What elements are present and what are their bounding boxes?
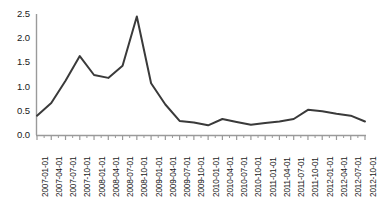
x-axis-tick-label: 2008-07-01 bbox=[126, 157, 135, 197]
y-axis-tick-label: 0.0 bbox=[8, 130, 30, 140]
x-axis-tick-label: 2012-04-01 bbox=[340, 157, 349, 197]
x-axis-tick-label: 2010-01-01 bbox=[212, 157, 221, 197]
x-axis-tick-label: 2008-04-01 bbox=[112, 157, 121, 197]
x-axis-tick-label: 2010-07-01 bbox=[240, 157, 249, 197]
x-axis-tick-label: 2010-10-01 bbox=[254, 157, 263, 197]
x-axis-tick-label: 2007-01-01 bbox=[41, 157, 50, 197]
x-axis-tick-label: 2012-10-01 bbox=[369, 157, 378, 197]
x-axis-tick-label: 2011-04-01 bbox=[283, 157, 292, 197]
x-axis-tick-label: 2011-01-01 bbox=[269, 157, 278, 197]
x-axis-tick-label: 2009-01-01 bbox=[155, 157, 164, 197]
x-axis-tick-label: 2011-10-01 bbox=[311, 157, 320, 197]
x-axis-tick-label: 2009-10-01 bbox=[197, 157, 206, 197]
x-axis-tick-label: 2010-04-01 bbox=[226, 157, 235, 197]
line-chart: 0.00.51.01.52.02.5 2007-01-012007-04-012… bbox=[0, 0, 382, 201]
y-axis-tick-label: 2.0 bbox=[8, 33, 30, 43]
x-axis-tick-label: 2008-01-01 bbox=[98, 157, 107, 197]
y-axis-tick-label: 2.5 bbox=[8, 9, 30, 19]
y-axis-tick-label: 0.5 bbox=[8, 106, 30, 116]
x-axis-tick-label: 2007-10-01 bbox=[83, 157, 92, 197]
x-axis-tick-label: 2007-04-01 bbox=[55, 157, 64, 197]
y-axis-tick-label: 1.0 bbox=[8, 82, 30, 92]
x-axis-tick-label: 2008-10-01 bbox=[140, 157, 149, 197]
x-axis-tick-label: 2011-07-01 bbox=[297, 157, 306, 197]
data-series-line bbox=[37, 16, 365, 125]
y-axis-tick-label: 1.5 bbox=[8, 57, 30, 67]
x-axis-tick-label: 2009-07-01 bbox=[183, 157, 192, 197]
axis-group bbox=[36, 14, 366, 140]
x-axis-tick-label: 2009-04-01 bbox=[169, 157, 178, 197]
x-axis-tick-label: 2007-07-01 bbox=[69, 157, 78, 197]
x-axis-tick-label: 2012-01-01 bbox=[326, 157, 335, 197]
x-axis-tick-label: 2012-07-01 bbox=[354, 157, 363, 197]
